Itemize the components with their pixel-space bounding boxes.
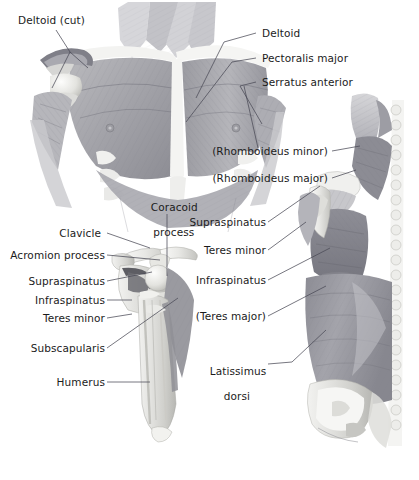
label-teres-minor-left: Teres minor — [3, 312, 105, 325]
label-deltoid-cut: Deltoid (cut) — [18, 14, 85, 27]
label-teres-major: (Teres major) — [166, 310, 266, 323]
anatomical-plate: Deltoid (cut) Deltoid Pectoralis major S… — [0, 0, 419, 480]
label-supraspinatus-right: Supraspinatus — [166, 216, 266, 229]
label-supraspinatus-left: Supraspinatus — [3, 275, 105, 288]
label-pectoralis-major: Pectoralis major — [262, 52, 348, 65]
label-rhomboideus-minor: (Rhomboideus minor) — [212, 145, 328, 158]
label-subscapularis: Subscapularis — [3, 342, 105, 355]
label-deltoid: Deltoid — [262, 27, 300, 40]
label-rhomboideus-major: (Rhomboideus major) — [212, 172, 328, 185]
label-serratus-anterior: Serratus anterior — [262, 76, 353, 89]
label-teres-minor-right: Teres minor — [166, 244, 266, 257]
label-acromion-process: Acromion process — [3, 249, 105, 262]
label-coracoid-process-line1: Coracoid — [151, 201, 198, 213]
vertebral-column — [388, 100, 404, 446]
label-infraspinatus-right: Infraspinatus — [166, 274, 266, 287]
label-clavicle: Clavicle — [1, 227, 101, 240]
label-latissimus-dorsi-line2: dorsi — [224, 390, 250, 402]
label-infraspinatus-left: Infraspinatus — [3, 294, 105, 307]
label-latissimus-dorsi-line1: Latissimus — [210, 365, 267, 377]
label-latissimus-dorsi: Latissimus dorsi — [196, 352, 264, 415]
label-humerus: Humerus — [3, 376, 105, 389]
